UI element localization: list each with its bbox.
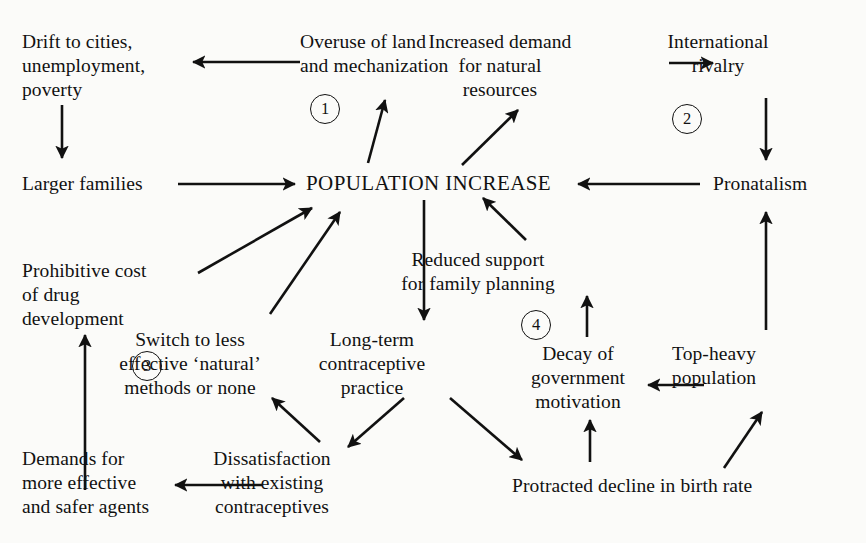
- node-reduced: Reduced support for family planning: [401, 248, 555, 296]
- loop-marker-4: 4: [521, 310, 551, 340]
- node-pronatalism: Pronatalism: [713, 172, 807, 196]
- node-demands: Demands for more effective and safer age…: [22, 447, 149, 518]
- node-protracted: Protracted decline in birth rate: [512, 474, 752, 498]
- loop-marker-1: 1: [310, 94, 340, 124]
- arrow-switch-to-population: [270, 212, 340, 314]
- causal-loop-diagram: Drift to cities, unemployment, povertyOv…: [0, 0, 866, 543]
- node-larger: Larger families: [22, 172, 143, 196]
- node-longterm: Long-term contraceptive practice: [319, 328, 425, 399]
- node-decay: Decay of government motivation: [531, 342, 625, 413]
- node-topheavy: Top-heavy population: [672, 342, 756, 390]
- arrow-longterm-to-protracted: [450, 398, 522, 460]
- arrow-longterm-to-dissatisfaction: [348, 398, 404, 447]
- loop-marker-3: 3: [132, 351, 162, 381]
- node-overuse: Overuse of land and mechanization: [300, 30, 448, 78]
- node-prohibitive: Prohibitive cost of drug development: [22, 259, 147, 330]
- node-demand: Increased demand for natural resources: [429, 30, 572, 101]
- loop-marker-2: 2: [672, 104, 702, 134]
- arrow-prohibitive-to-population: [198, 208, 312, 273]
- arrow-population-to-overuse: [368, 100, 385, 163]
- arrow-protracted-to-topheavy: [724, 412, 762, 468]
- node-population: POPULATION INCREASE: [306, 171, 551, 197]
- node-dissatisfaction: Dissatisfaction with existing contracept…: [213, 447, 330, 518]
- arrow-population-to-demand: [462, 110, 518, 165]
- node-rivalry: International rivalry: [668, 30, 769, 78]
- arrow-dissatisfaction-to-switch: [272, 398, 320, 442]
- node-drift: Drift to cities, unemployment, poverty: [22, 30, 145, 101]
- arrow-reduced-to-population: [483, 198, 526, 240]
